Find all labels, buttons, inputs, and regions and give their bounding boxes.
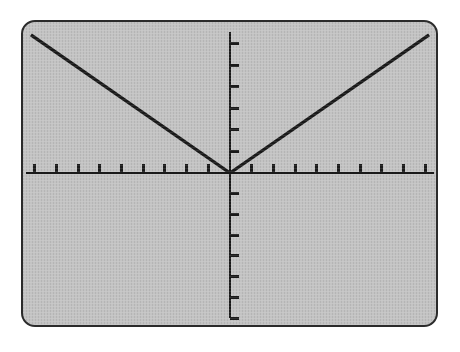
y-axis-group <box>230 32 239 318</box>
screenshot-root <box>0 0 460 352</box>
calculator-screen[interactable] <box>21 20 438 327</box>
graph-plot-area[interactable] <box>23 22 436 325</box>
